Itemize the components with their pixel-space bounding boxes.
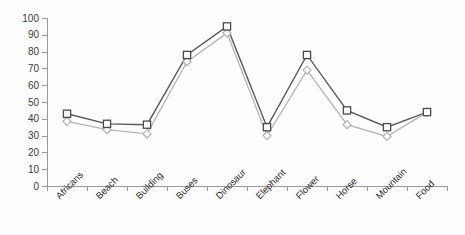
data-point-marker-diamond [263,132,271,140]
data-point-marker-square [383,124,390,131]
data-point-marker-square [143,121,150,128]
data-point-marker-square [423,108,430,115]
data-point-marker-square [303,51,310,58]
data-point-marker-square [223,23,230,30]
data-point-marker-diamond [143,130,151,138]
data-point-marker-square [103,120,110,127]
data-point-marker-diamond [383,132,391,140]
line-chart: 0102030405060708090100 AfricansBeachBuil… [0,0,465,235]
plot-area [0,0,465,235]
data-point-marker-square [63,110,70,117]
data-point-marker-square [263,124,270,131]
data-point-marker-diamond [63,117,71,125]
data-point-marker-square [183,51,190,58]
series-line [67,26,427,127]
data-point-marker-square [343,107,350,114]
